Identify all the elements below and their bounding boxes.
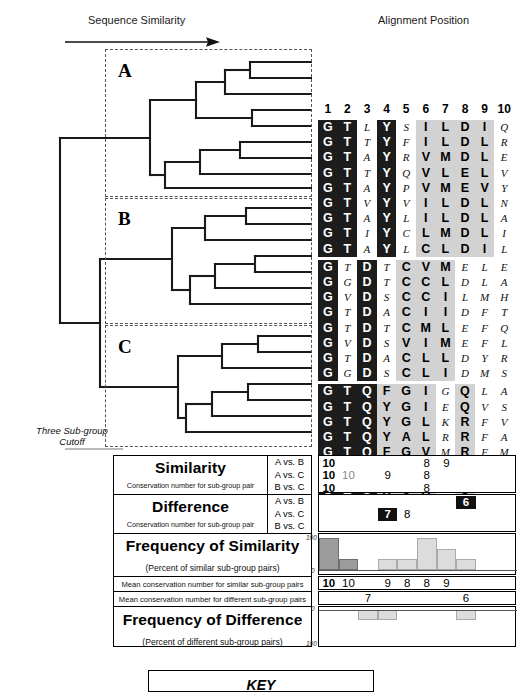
alignment-cell: T xyxy=(338,120,358,135)
analysis-data-panel: 1089101098108 678 10109889 76 10000100 xyxy=(318,455,516,647)
freq-similarity-subtitle: (Percent of similar sub-group pairs) xyxy=(114,555,311,573)
alignment-cell: M xyxy=(436,181,456,196)
alignment-cell: A xyxy=(357,150,377,165)
alignment-cell: D xyxy=(357,366,377,381)
alignment-cell: G xyxy=(318,211,338,226)
alignment-cell: I xyxy=(436,290,456,305)
alignment-cell: Y xyxy=(475,351,495,366)
alignment-matrix: 12345678910GTLYSILDIQGTTYFILDLRGTAYRVMDL… xyxy=(318,60,516,458)
key-box: KEY xyxy=(148,670,374,692)
alignment-cell: Q xyxy=(357,430,377,445)
alignment-column-header: 5 xyxy=(396,102,416,116)
group-letter-c: C xyxy=(118,336,132,358)
alignment-cell: C xyxy=(416,242,436,257)
freq-difference-label-row: Frequency of Difference (Percent of diff… xyxy=(114,607,311,648)
alignment-cell: Q xyxy=(455,384,475,399)
alignment-cell: Y xyxy=(377,181,397,196)
alignment-cell: G xyxy=(396,400,416,415)
similarity-value: 8 xyxy=(417,457,437,470)
alignment-cell: D xyxy=(455,305,475,320)
alignment-cell: S xyxy=(396,120,416,135)
freq-difference-axis-max: 0 xyxy=(311,605,315,612)
similarity-label-row: Similarity Conservation number for sub-g… xyxy=(114,456,311,494)
alignment-cell: Q xyxy=(357,384,377,399)
alignment-cell: R xyxy=(436,430,456,445)
alignment-cell: Y xyxy=(377,120,397,135)
alignment-cell: C xyxy=(396,366,416,381)
freq-difference-subtitle: (Percent of different sub-group pairs) xyxy=(114,629,311,647)
alignment-cell: G xyxy=(318,430,338,445)
alignment-cell: L xyxy=(475,275,495,290)
group-box-c xyxy=(105,325,312,447)
chart-axis-line xyxy=(319,610,517,611)
similarity-value: 10 xyxy=(319,469,339,482)
alignment-cell: D xyxy=(455,275,475,290)
alignment-cell: Y xyxy=(377,430,397,445)
alignment-cell: C xyxy=(396,351,416,366)
similarity-value: 9 xyxy=(378,469,398,482)
alignment-cell: M xyxy=(436,260,456,275)
alignment-cell: I xyxy=(416,196,436,211)
alignment-position-label: Alignment Position xyxy=(378,14,469,26)
frequency-bar xyxy=(397,559,417,570)
alignment-cell: M xyxy=(475,290,495,305)
alignment-cell: L xyxy=(475,226,495,241)
alignment-cell: L xyxy=(436,321,456,336)
alignment-cell: E xyxy=(455,166,475,181)
group-letter-a: A xyxy=(118,60,132,82)
mean-different-label: Mean conservation number for different s… xyxy=(114,592,311,604)
alignment-cell: Y xyxy=(377,400,397,415)
alignment-cell: D xyxy=(455,226,475,241)
alignment-cell: L xyxy=(436,242,456,257)
alignment-cell: G xyxy=(396,415,416,430)
alignment-cell: G xyxy=(318,366,338,381)
freq-similarity-axis-max: 100 xyxy=(306,534,317,541)
alignment-cell: V xyxy=(416,150,436,165)
difference-pair-list: A vs. B A vs. C B vs. C xyxy=(267,495,311,533)
alignment-column-header: 8 xyxy=(455,102,475,116)
alignment-cell: R xyxy=(455,430,475,445)
mean-similar-label: Mean conservation number for similar sub… xyxy=(114,577,311,589)
key-title: KEY xyxy=(149,677,373,692)
alignment-cell: G xyxy=(318,275,338,290)
alignment-cell: C xyxy=(396,290,416,305)
sequence-similarity-label: Sequence Similarity xyxy=(88,14,185,26)
alignment-cell: E xyxy=(436,400,456,415)
alignment-cell: L xyxy=(416,430,436,445)
alignment-cell: C xyxy=(396,226,416,241)
alignment-cell: Q xyxy=(455,400,475,415)
similarity-value: 10 xyxy=(319,457,339,470)
alignment-cell: M xyxy=(436,336,456,351)
frequency-bar xyxy=(319,538,339,570)
analysis-label-panel: Similarity Conservation number for sub-g… xyxy=(113,455,312,647)
alignment-cell: G xyxy=(318,415,338,430)
alignment-cell: E xyxy=(494,260,514,275)
alignment-cell: G xyxy=(318,290,338,305)
alignment-cell: I xyxy=(416,384,436,399)
alignment-cell: T xyxy=(338,196,358,211)
alignment-cell: Q xyxy=(494,120,514,135)
alignment-cell: L xyxy=(396,211,416,226)
alignment-cell: F xyxy=(377,384,397,399)
alignment-cell: L xyxy=(475,260,495,275)
similarity-pair-list: A vs. B A vs. C B vs. C xyxy=(267,456,311,494)
alignment-cell: L xyxy=(416,415,436,430)
alignment-cell: F xyxy=(475,336,495,351)
alignment-cell: D xyxy=(455,135,475,150)
alignment-cell: G xyxy=(318,196,338,211)
cutoff-line-1: Three Sub-group xyxy=(36,425,108,436)
alignment-cell: L xyxy=(475,166,495,181)
alignment-cell: A xyxy=(357,211,377,226)
alignment-cell: L xyxy=(396,242,416,257)
alignment-column-header: 9 xyxy=(475,102,495,116)
difference-pair: B vs. C xyxy=(268,520,311,533)
alignment-cell: T xyxy=(338,384,358,399)
alignment-cell: F xyxy=(475,415,495,430)
alignment-cell: Y xyxy=(377,226,397,241)
alignment-cell: M xyxy=(436,150,456,165)
alignment-cell: G xyxy=(318,226,338,241)
alignment-column-header: 7 xyxy=(436,102,456,116)
alignment-cell: F xyxy=(475,305,495,320)
alignment-cell: F xyxy=(475,430,495,445)
similarity-value: 10 xyxy=(339,469,359,482)
